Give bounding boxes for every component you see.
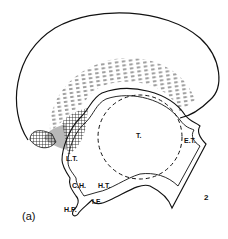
label-ht: H.T. [98, 182, 111, 189]
label-hp: H.P. [64, 206, 77, 213]
panel-label: (a) [22, 210, 35, 222]
label-et: E.T. [184, 137, 196, 144]
anatomical-diagram: T. E.T. L.T. C.H. H.T. I.F. H.P. 2 (a) [0, 0, 228, 239]
label-lt: L.T. [66, 155, 78, 162]
label-if: I.F. [92, 198, 101, 205]
panel-number: 2 [204, 193, 209, 202]
label-ch: C.H. [72, 182, 86, 189]
label-t: T. [136, 132, 142, 139]
